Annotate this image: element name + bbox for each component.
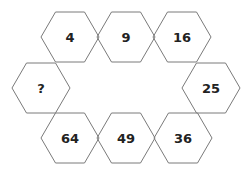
hex-label-16: 16 — [162, 31, 202, 45]
hex-label-9: 9 — [106, 31, 146, 45]
hex-label-question: ? — [21, 82, 61, 96]
hex-label-36: 36 — [163, 132, 203, 146]
hex-label-49: 49 — [106, 132, 146, 146]
hex-label-25: 25 — [191, 82, 231, 96]
hex-label-4: 4 — [50, 31, 90, 45]
hex-label-64: 64 — [50, 132, 90, 146]
